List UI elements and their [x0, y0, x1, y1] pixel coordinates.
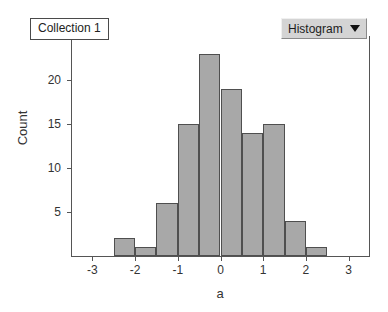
y-axis-tick: 15 [67, 124, 71, 125]
x-axis-tick-label: 0 [217, 264, 224, 276]
y-axis-tick-label: 15 [48, 118, 61, 130]
histogram-bar[interactable] [263, 124, 284, 256]
x-axis-tick [221, 257, 222, 261]
x-axis-tick-label: -2 [130, 264, 141, 276]
histogram-bar[interactable] [285, 221, 306, 256]
x-axis-tick-label: 2 [303, 264, 310, 276]
x-axis-title: a [216, 286, 223, 301]
histogram-bar[interactable] [135, 247, 156, 256]
y-axis-tick-label: 10 [48, 162, 61, 174]
histogram-bar[interactable] [178, 124, 199, 256]
x-axis-tick [349, 257, 350, 261]
histogram-bar[interactable] [221, 89, 242, 256]
y-axis-tick-label: 20 [48, 74, 61, 86]
y-axis-tick: 5 [67, 212, 71, 213]
x-axis-tick [135, 257, 136, 261]
x-axis-tick [92, 257, 93, 261]
x-axis-tick [178, 257, 179, 261]
histogram-bar[interactable] [242, 133, 263, 256]
y-axis-tick: 10 [67, 168, 71, 169]
y-axis-tick-label: 5 [54, 206, 61, 218]
x-axis-tick [306, 257, 307, 261]
plot-type-value: Histogram [288, 22, 343, 36]
x-axis-tick-label: -1 [172, 264, 183, 276]
histogram-bar[interactable] [199, 54, 220, 256]
histogram-bar[interactable] [114, 238, 135, 256]
plot-type-dropdown[interactable]: Histogram [281, 18, 367, 39]
collection-label-box[interactable]: Collection 1 [30, 18, 109, 40]
plot-area: 510152025 -3-2-10123 [71, 36, 370, 257]
y-axis-line [71, 36, 72, 257]
x-axis-tick-label: 3 [345, 264, 352, 276]
x-axis-tick [263, 257, 264, 261]
x-axis-tick-label: -3 [87, 264, 98, 276]
x-axis-tick-label: 1 [260, 264, 267, 276]
y-axis-title: Count [15, 111, 30, 146]
histogram-plot-window: Collection 1 Histogram 510152025 -3-2-10… [0, 0, 388, 312]
collection-label-text: Collection 1 [38, 21, 101, 35]
chevron-down-icon [350, 25, 360, 32]
y-axis-tick: 20 [67, 80, 71, 81]
plot-frame-right-edge [369, 36, 370, 257]
histogram-bar[interactable] [306, 247, 327, 256]
histogram-bar[interactable] [156, 203, 177, 256]
